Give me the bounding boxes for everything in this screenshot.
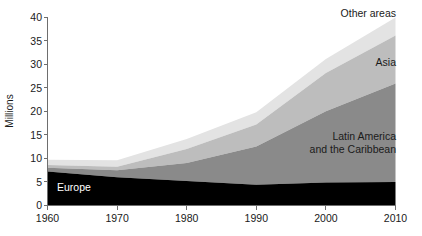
x-axis: 1960 1970 1980 1990 2000 2010 (36, 206, 408, 225)
x-tick-label-1990: 1990 (245, 212, 269, 224)
y-axis-title: Millions (4, 94, 15, 127)
y-tick-label-15: 15 (30, 129, 42, 141)
y-tick-label-0: 0 (36, 199, 42, 211)
x-tick-label-2010: 2010 (384, 212, 408, 224)
y-tick-label-20: 20 (30, 105, 42, 117)
y-tick-label-25: 25 (30, 82, 42, 94)
y-tick-label-35: 35 (30, 35, 42, 47)
x-tick-marks (48, 206, 396, 210)
label-latin-america-line1: Latin America (332, 130, 396, 142)
y-tick-label-5: 5 (36, 176, 42, 188)
label-other-areas: Other areas (341, 7, 396, 19)
y-tick-label-30: 30 (30, 58, 42, 70)
label-europe: Europe (57, 181, 91, 193)
chart-canvas: 0 5 10 15 20 25 30 35 40 Millions 1960 1… (0, 0, 422, 236)
y-axis: 0 5 10 15 20 25 30 35 40 Millions (4, 11, 48, 211)
area-series-group (48, 17, 396, 205)
x-tick-label-1960: 1960 (36, 212, 60, 224)
x-tick-label-2000: 2000 (314, 212, 338, 224)
label-asia: Asia (376, 56, 397, 68)
y-tick-marks (44, 17, 48, 206)
x-tick-label-1980: 1980 (175, 212, 199, 224)
y-tick-label-40: 40 (30, 11, 42, 23)
y-tick-label-10: 10 (30, 152, 42, 164)
label-latin-america-line2: and the Caribbean (310, 143, 397, 155)
x-tick-label-1970: 1970 (105, 212, 129, 224)
stacked-area-chart: 0 5 10 15 20 25 30 35 40 Millions 1960 1… (0, 0, 422, 236)
